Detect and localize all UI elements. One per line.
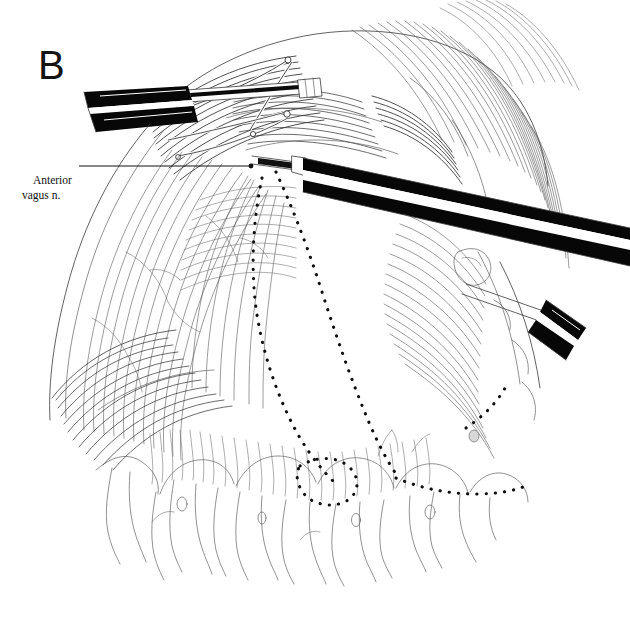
annotation-line-1: Anterior <box>33 174 72 186</box>
panel-letter: B <box>38 45 65 85</box>
annotation-line-2: vagus n. <box>22 188 72 203</box>
annotation-anterior-vagus-nerve: Anteriorvagus n. <box>22 158 72 233</box>
surgical-illustration-figure: .hair{fill:none;stroke:#4a4a4a;stroke-wi… <box>0 0 630 620</box>
illustration-canvas: .hair{fill:none;stroke:#4a4a4a;stroke-wi… <box>0 0 630 620</box>
